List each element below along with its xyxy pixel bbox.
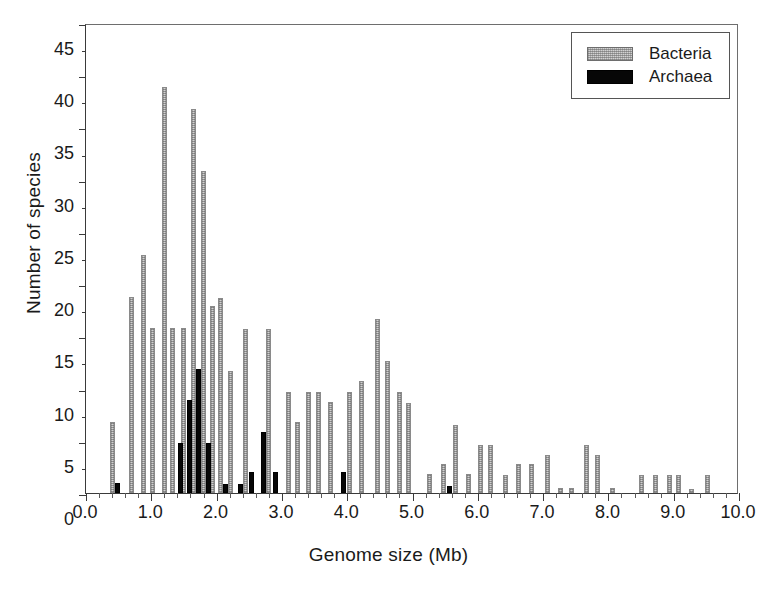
bar-bacteria xyxy=(228,371,233,493)
x-tick-minor xyxy=(321,493,322,498)
bar-bacteria xyxy=(639,475,644,493)
x-tick xyxy=(347,493,348,501)
x-tick-label: 7.0 xyxy=(530,502,555,523)
bar-bacteria xyxy=(141,255,146,493)
bar-bacteria xyxy=(162,87,167,493)
bar-archaea xyxy=(187,400,192,493)
bar-archaea xyxy=(341,472,346,493)
x-tick-minor xyxy=(190,493,191,498)
x-tick-minor xyxy=(687,493,688,498)
y-tick-minor xyxy=(82,208,86,209)
x-tick-minor xyxy=(713,493,714,498)
bar-bacteria xyxy=(595,455,600,493)
x-tick-minor xyxy=(204,493,205,498)
bar-bacteria xyxy=(569,488,574,493)
x-tick-minor xyxy=(530,493,531,498)
bar-bacteria xyxy=(397,392,402,493)
x-tick xyxy=(151,493,152,501)
y-tick-label: 10 xyxy=(8,404,74,425)
x-tick-minor xyxy=(504,493,505,498)
legend-item-bacteria: Bacteria xyxy=(572,42,729,65)
x-tick-label: 3.0 xyxy=(268,502,293,523)
x-tick-minor xyxy=(621,493,622,498)
legend-swatch-bacteria xyxy=(587,47,633,61)
x-tick-label: 4.0 xyxy=(334,502,359,523)
bar-archaea xyxy=(261,432,266,493)
bar-bacteria xyxy=(529,464,534,493)
x-tick-label: 8.0 xyxy=(595,502,620,523)
bar-bacteria xyxy=(328,402,333,493)
bar-bacteria xyxy=(667,475,672,493)
bar-bacteria xyxy=(306,392,311,493)
x-tick-minor xyxy=(230,493,231,498)
bar-bacteria xyxy=(676,475,681,493)
y-tick-minor xyxy=(82,103,86,104)
bar-bacteria xyxy=(478,445,483,493)
x-tick-minor xyxy=(99,493,100,498)
y-tick xyxy=(79,77,86,78)
y-tick xyxy=(79,182,86,183)
x-tick-minor xyxy=(439,493,440,498)
x-tick-label: 10.0 xyxy=(720,502,755,523)
x-tick-label: 6.0 xyxy=(464,502,489,523)
x-tick xyxy=(217,493,218,501)
x-tick-minor xyxy=(177,493,178,498)
x-tick-label: 0.0 xyxy=(72,502,97,523)
y-tick xyxy=(79,286,86,287)
bar-archaea xyxy=(196,369,201,493)
x-axis-title: Genome size (Mb) xyxy=(0,544,777,566)
bar-bacteria xyxy=(316,392,321,493)
y-tick-minor xyxy=(82,364,86,365)
y-tick-minor xyxy=(82,156,86,157)
x-tick-minor xyxy=(569,493,570,498)
bar-bacteria xyxy=(243,329,248,493)
bar-bacteria xyxy=(218,298,223,493)
bar-bacteria xyxy=(584,445,589,493)
x-tick-minor xyxy=(517,493,518,498)
legend-label-archaea: Archaea xyxy=(649,67,712,87)
x-tick-minor xyxy=(308,493,309,498)
bar-bacteria xyxy=(385,361,390,493)
x-tick-minor xyxy=(582,493,583,498)
x-tick-minor xyxy=(399,493,400,498)
bar-archaea xyxy=(447,486,452,493)
x-tick xyxy=(478,493,479,501)
chart-legend: Bacteria Archaea xyxy=(571,32,730,99)
x-tick-label: 5.0 xyxy=(399,502,424,523)
bar-bacteria xyxy=(488,445,493,493)
x-tick xyxy=(674,493,675,501)
y-tick-minor xyxy=(82,260,86,261)
x-tick-minor xyxy=(360,493,361,498)
y-tick-label: 5 xyxy=(8,456,74,477)
x-tick-minor xyxy=(635,493,636,498)
x-tick xyxy=(739,493,740,501)
x-tick-minor xyxy=(138,493,139,498)
bar-bacteria xyxy=(295,422,300,493)
y-tick-label: 25 xyxy=(8,247,74,268)
legend-label-bacteria: Bacteria xyxy=(649,44,711,64)
x-tick-minor xyxy=(269,493,270,498)
legend-item-archaea: Archaea xyxy=(572,65,729,88)
bar-bacteria xyxy=(359,381,364,493)
bar-bacteria xyxy=(347,392,352,493)
x-tick xyxy=(543,493,544,501)
y-tick-minor xyxy=(82,469,86,470)
y-tick xyxy=(79,25,86,26)
x-tick-minor xyxy=(125,493,126,498)
bar-bacteria xyxy=(558,488,563,493)
x-tick-minor xyxy=(164,493,165,498)
bar-archaea xyxy=(273,472,278,493)
bar-bacteria xyxy=(689,489,694,493)
y-tick-label: 45 xyxy=(8,39,74,60)
y-tick xyxy=(79,495,86,496)
bar-bacteria xyxy=(653,475,658,493)
legend-swatch-archaea xyxy=(587,70,633,84)
bar-bacteria xyxy=(503,475,508,493)
bar-bacteria xyxy=(545,455,550,493)
x-tick xyxy=(282,493,283,501)
y-tick xyxy=(79,338,86,339)
y-tick-label: 0 xyxy=(8,509,74,530)
bar-archaea xyxy=(206,443,211,493)
y-tick-minor xyxy=(82,51,86,52)
bar-archaea xyxy=(249,472,254,493)
